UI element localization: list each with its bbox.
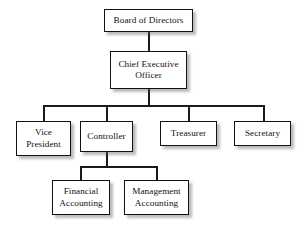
connector-bus-to-secretary <box>263 105 265 121</box>
node-management-accounting-label: Management Accounting <box>130 186 182 209</box>
connector-bus-to-management-accounting <box>156 166 158 180</box>
node-vice-president-label: Vice President <box>24 127 63 150</box>
node-financial-accounting-label: Financial Accounting <box>57 186 104 209</box>
node-controller-label: Controller <box>85 131 127 143</box>
node-treasurer[interactable]: Treasurer <box>160 121 217 146</box>
connector-ceo-stem <box>148 89 150 106</box>
node-treasurer-label: Treasurer <box>169 128 208 140</box>
node-chief-executive-officer-label: Chief Executive Officer <box>116 59 180 82</box>
connector-controller-stem <box>106 152 108 167</box>
connector-level3-bus <box>43 105 265 107</box>
connector-bus-to-treasurer <box>188 105 190 121</box>
node-board-of-directors[interactable]: Board of Directors <box>104 9 193 32</box>
node-management-accounting[interactable]: Management Accounting <box>124 180 189 215</box>
connector-board-to-ceo <box>148 32 150 51</box>
node-secretary[interactable]: Secretary <box>234 121 291 146</box>
node-vice-president[interactable]: Vice President <box>16 121 71 156</box>
connector-bus-to-controller <box>106 105 108 121</box>
node-board-of-directors-label: Board of Directors <box>112 15 186 27</box>
node-chief-executive-officer[interactable]: Chief Executive Officer <box>110 51 187 89</box>
connector-bus-to-financial-accounting <box>80 166 82 180</box>
node-secretary-label: Secretary <box>243 128 282 140</box>
node-financial-accounting[interactable]: Financial Accounting <box>52 180 110 215</box>
connector-bus-to-vice-president <box>43 105 45 121</box>
connector-level4-bus <box>80 166 158 168</box>
org-chart-diagram: Board of Directors Chief Executive Offic… <box>0 0 304 234</box>
node-controller[interactable]: Controller <box>80 121 133 152</box>
